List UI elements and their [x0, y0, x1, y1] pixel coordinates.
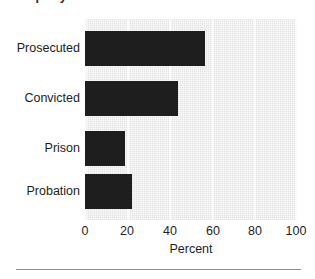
- gridline-60: [212, 19, 214, 220]
- category-axis-labels: Prosecuted Convicted Prison Probation: [0, 19, 80, 220]
- category-label-prosecuted: Prosecuted: [2, 41, 80, 55]
- category-label-convicted: Convicted: [2, 91, 80, 105]
- category-label-prison: Prison: [2, 141, 80, 155]
- bar-prison: [85, 131, 125, 166]
- page-title: Property Offenses — Probation: [14, 0, 274, 3]
- value-axis-title: Percent: [85, 242, 297, 256]
- xtick-label-60: 60: [206, 224, 220, 239]
- gridline-80: [254, 19, 256, 220]
- gridline-100: [295, 19, 297, 220]
- category-label-probation: Probation: [2, 184, 80, 198]
- value-axis-ticks: 0 20 40 60 80 100: [85, 224, 297, 240]
- xtick-label-20: 20: [120, 224, 134, 239]
- bar-chart-figure: Property Offenses — Probation Prosecuted…: [0, 0, 315, 279]
- xtick-label-80: 80: [248, 224, 262, 239]
- xtick-label-100: 100: [286, 224, 307, 239]
- bar-convicted: [85, 81, 178, 116]
- xtick-label-40: 40: [163, 224, 177, 239]
- xtick-label-0: 0: [82, 224, 89, 239]
- bar-probation: [85, 174, 132, 209]
- divider: [16, 269, 301, 270]
- bar-prosecuted: [85, 31, 205, 66]
- plot-area: [85, 19, 297, 220]
